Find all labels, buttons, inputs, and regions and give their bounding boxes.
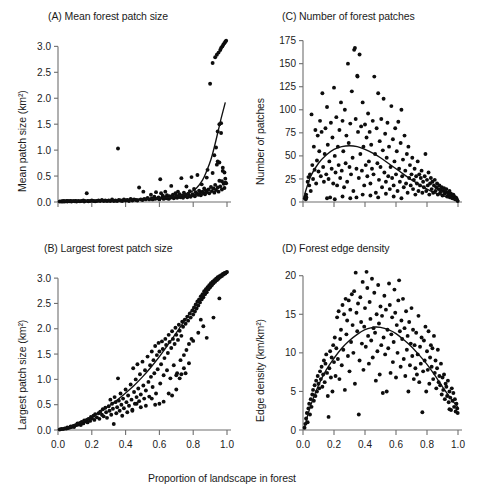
svg-text:0.4: 0.4 [358, 439, 372, 450]
panel-b-plot: 0.00.51.01.52.02.53.00.00.20.40.60.81.0 [0, 232, 240, 464]
panel-d-ylabel: Edge density (km/km²) [254, 319, 266, 422]
svg-text:75: 75 [285, 127, 297, 138]
panel-c-title: (C) Number of forest patches [282, 10, 415, 22]
svg-text:0: 0 [290, 197, 296, 208]
svg-text:15: 15 [285, 309, 297, 320]
svg-text:3.0: 3.0 [37, 41, 51, 52]
svg-text:0.8: 0.8 [186, 439, 200, 450]
svg-text:175: 175 [279, 35, 296, 46]
panel-b-ylabel: Largest patch size (km²) [16, 320, 28, 430]
svg-text:0.6: 0.6 [152, 439, 166, 450]
panel-b: (B) Largest forest patch size Largest pa… [0, 232, 240, 464]
panel-c-plot: 0255075100125150175 [240, 0, 479, 232]
svg-text:0.2: 0.2 [85, 439, 99, 450]
svg-text:0: 0 [290, 425, 296, 436]
panel-d: (D) Forest edge density Edge density (km… [240, 232, 479, 464]
svg-text:10: 10 [285, 347, 297, 358]
svg-text:50: 50 [285, 150, 297, 161]
svg-text:2.5: 2.5 [37, 298, 51, 309]
panel-a-title: (A) Mean forest patch size [48, 10, 168, 22]
svg-text:1.0: 1.0 [37, 145, 51, 156]
panel-c-ylabel: Number of patches [254, 98, 266, 185]
svg-text:0.2: 0.2 [327, 439, 341, 450]
svg-text:2.0: 2.0 [37, 93, 51, 104]
svg-text:1.0: 1.0 [37, 374, 51, 385]
svg-text:0.0: 0.0 [51, 439, 65, 450]
svg-text:0.0: 0.0 [37, 197, 51, 208]
svg-text:2.0: 2.0 [37, 323, 51, 334]
panel-a: (A) Mean forest patch size Mean patch si… [0, 0, 240, 232]
panel-a-ylabel: Mean patch size (km²) [16, 90, 28, 192]
svg-text:1.5: 1.5 [37, 349, 51, 360]
svg-text:0.8: 0.8 [420, 439, 434, 450]
svg-text:0.0: 0.0 [37, 425, 51, 436]
panel-b-title: (B) Largest forest patch size [44, 242, 172, 254]
svg-text:5: 5 [290, 386, 296, 397]
panel-d-title: (D) Forest edge density [282, 242, 389, 254]
svg-text:125: 125 [279, 81, 296, 92]
svg-text:1.5: 1.5 [37, 119, 51, 130]
svg-text:1.0: 1.0 [220, 439, 234, 450]
svg-text:0.5: 0.5 [37, 399, 51, 410]
svg-text:3.0: 3.0 [37, 273, 51, 284]
figure-xlabel: Proportion of landscape in forest [148, 472, 296, 484]
svg-text:20: 20 [285, 270, 297, 281]
svg-text:0.6: 0.6 [389, 439, 403, 450]
svg-text:0.5: 0.5 [37, 171, 51, 182]
svg-text:1.0: 1.0 [451, 439, 465, 450]
svg-text:0.0: 0.0 [296, 439, 310, 450]
svg-text:100: 100 [279, 104, 296, 115]
panel-d-plot: 051015200.00.20.40.60.81.0 [240, 232, 479, 464]
svg-text:25: 25 [285, 174, 297, 185]
figure-panel-grid: (A) Mean forest patch size Mean patch si… [0, 0, 479, 496]
svg-text:2.5: 2.5 [37, 67, 51, 78]
panel-a-plot: 0.00.51.01.52.02.53.0 [0, 0, 240, 232]
panel-c: (C) Number of forest patches Number of p… [240, 0, 479, 232]
svg-text:150: 150 [279, 58, 296, 69]
svg-text:0.4: 0.4 [119, 439, 133, 450]
